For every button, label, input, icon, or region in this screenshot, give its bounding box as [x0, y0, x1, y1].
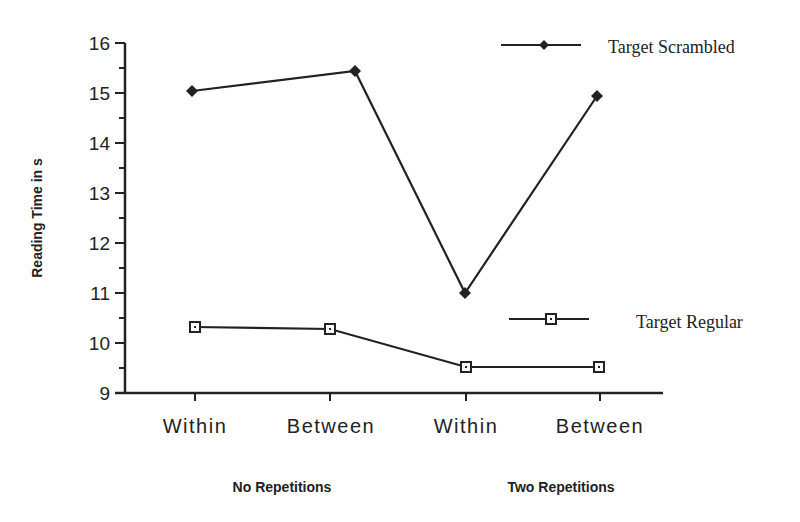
- y-tick-9: 9: [99, 383, 110, 404]
- legend-label-scrambled: Target Scrambled: [608, 37, 735, 57]
- y-tick-16: 16: [89, 33, 110, 54]
- group-label-two-repetitions: Two Repetitions: [507, 479, 614, 495]
- y-major-ticks: [115, 43, 125, 343]
- category-label-between-1: Between: [287, 415, 375, 437]
- y-tick-14: 14: [89, 133, 111, 154]
- legend-item-regular: Target Regular: [509, 312, 743, 332]
- legend-item-scrambled: Target Scrambled: [501, 37, 735, 57]
- y-tick-12: 12: [89, 233, 110, 254]
- x-category-labels: Within Between Within Between: [163, 415, 644, 437]
- legend-label-regular: Target Regular: [636, 312, 743, 332]
- diamond-marker-icon: [539, 40, 549, 50]
- y-axis-label: Reading Time in s: [29, 158, 45, 278]
- category-label-within-2: Within: [434, 415, 499, 437]
- category-label-between-2: Between: [556, 415, 644, 437]
- y-tick-13: 13: [89, 183, 110, 204]
- line-chart: 16 15 14 13 12 11 10 9 Reading Time in s…: [0, 0, 800, 522]
- series-target-regular: [190, 322, 604, 372]
- series-target-scrambled: [186, 65, 603, 299]
- group-label-no-repetitions: No Repetitions: [233, 479, 332, 495]
- y-tick-11: 11: [90, 283, 110, 304]
- category-label-within-1: Within: [163, 415, 228, 437]
- y-tick-labels: 16 15 14 13 12 11 10 9: [89, 33, 111, 404]
- y-tick-10: 10: [89, 333, 110, 354]
- y-tick-15: 15: [89, 83, 110, 104]
